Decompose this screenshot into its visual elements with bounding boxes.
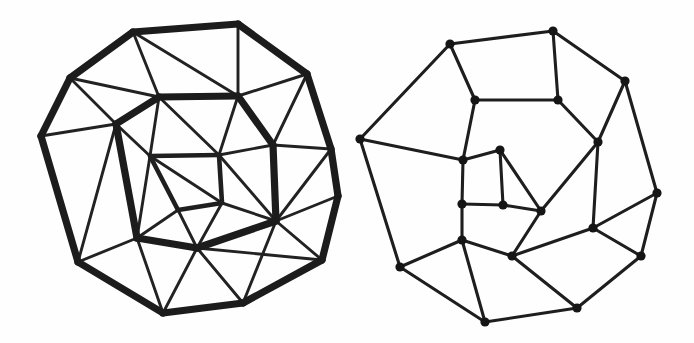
vertex-dot-R8 xyxy=(445,39,454,48)
edge-R0-R10 xyxy=(553,31,558,100)
edge-R3-R12 xyxy=(593,228,641,256)
chords-L12-L19 xyxy=(219,96,238,155)
vertex-dot-R13 xyxy=(507,251,516,260)
vertex-dot-R17 xyxy=(536,206,545,215)
chords-L10-L11 xyxy=(133,32,159,97)
edge-R3-R4 xyxy=(577,256,641,308)
chords-L16-L21 xyxy=(137,210,178,238)
vertex-dot-R14 xyxy=(457,235,466,244)
edge-R11-R12 xyxy=(593,142,598,228)
edge-R2-R3 xyxy=(641,193,657,256)
edge-R8-R9 xyxy=(450,44,475,100)
inner-L11-L12 xyxy=(159,96,238,97)
chords-L5-L15 xyxy=(197,248,243,303)
figure-canvas xyxy=(0,0,694,343)
core-L18-L19 xyxy=(150,155,219,156)
core-L19-L20 xyxy=(219,155,222,203)
edge-R18-R19 xyxy=(462,204,503,205)
vertex-dot-R11 xyxy=(593,137,602,146)
outer-L6-L7 xyxy=(78,262,163,313)
chords-L10-L12 xyxy=(133,32,238,96)
chords-L7-L16 xyxy=(78,238,137,262)
chords-L6-L15 xyxy=(163,248,197,313)
edge-R4-R13 xyxy=(512,256,577,308)
inner-L13-L14 xyxy=(273,145,276,221)
inner-L17-L11 xyxy=(116,97,159,124)
edge-R6-R14 xyxy=(400,240,462,267)
edge-R7-R15 xyxy=(360,139,463,160)
outer-L1-L2 xyxy=(307,74,331,149)
chords-L11-L19 xyxy=(159,97,219,155)
vertex-dot-R12 xyxy=(588,223,597,232)
right-panel-edges xyxy=(360,31,657,322)
vertex-dot-R0 xyxy=(548,26,557,35)
chords-L8-L17 xyxy=(41,124,116,136)
vertex-dot-R10 xyxy=(553,95,562,104)
edge-R11-R17 xyxy=(541,142,598,211)
edge-R1-R2 xyxy=(625,81,657,193)
edge-R6-R7 xyxy=(360,139,400,267)
vertex-dot-R1 xyxy=(620,76,629,85)
edge-R0-R1 xyxy=(553,31,625,81)
chords-L16-L18 xyxy=(137,156,150,238)
right-panel-vertex-dots xyxy=(355,26,661,326)
edge-R19-R15 xyxy=(462,160,463,204)
outer-L2-L3 xyxy=(331,149,338,196)
edge-R1-R11 xyxy=(598,81,625,142)
outer-L0-L1 xyxy=(238,24,307,74)
chords-L13-L19 xyxy=(219,145,273,155)
vertex-dot-R18 xyxy=(498,200,507,209)
edge-R12-R13 xyxy=(512,228,593,256)
vertex-dot-R2 xyxy=(652,188,661,197)
chords-L9-L11 xyxy=(70,78,159,97)
edge-R8-R0 xyxy=(450,31,553,44)
outer-L5-L6 xyxy=(163,303,243,313)
edge-R7-R8 xyxy=(360,44,450,139)
outer-L4-L5 xyxy=(243,260,322,303)
outer-L10-L0 xyxy=(133,24,238,32)
edge-R15-R16 xyxy=(463,150,500,160)
inner-L12-L13 xyxy=(238,96,273,145)
vertex-dot-R19 xyxy=(457,199,466,208)
outer-L9-L10 xyxy=(70,32,133,78)
chords-L4-L14 xyxy=(276,221,322,260)
vertex-dot-R16 xyxy=(495,145,504,154)
vertex-dot-R3 xyxy=(636,251,645,260)
vertex-dot-R6 xyxy=(395,262,404,271)
edge-R13-R14 xyxy=(462,240,512,256)
edge-R10-R11 xyxy=(558,100,598,142)
vertex-dot-R5 xyxy=(480,317,489,326)
left-panel-triangulated-polyhedral-graph xyxy=(41,24,338,313)
chords-L2-L13 xyxy=(273,145,331,149)
edge-R16-R18 xyxy=(500,150,503,205)
edge-R9-R15 xyxy=(463,100,475,160)
core-L20-L21 xyxy=(178,203,222,210)
vertex-dot-R15 xyxy=(458,155,467,164)
outer-L3-L4 xyxy=(322,196,338,260)
vertex-dot-R4 xyxy=(572,303,581,312)
outer-L7-L8 xyxy=(41,136,78,262)
edge-R2-R12 xyxy=(593,193,657,228)
right-panel-cubic-planar-dual-graph xyxy=(355,26,661,326)
vertex-dot-R9 xyxy=(470,95,479,104)
graph-pair-illustration xyxy=(0,0,694,343)
chords-L7-L17 xyxy=(78,124,116,262)
edge-R17-R13 xyxy=(512,211,541,256)
edge-R4-R5 xyxy=(485,308,577,322)
edge-R18-R17 xyxy=(503,205,541,211)
inner-L15-L16 xyxy=(137,238,197,248)
vertex-dot-R7 xyxy=(355,134,364,143)
outer-L8-L9 xyxy=(41,78,70,136)
